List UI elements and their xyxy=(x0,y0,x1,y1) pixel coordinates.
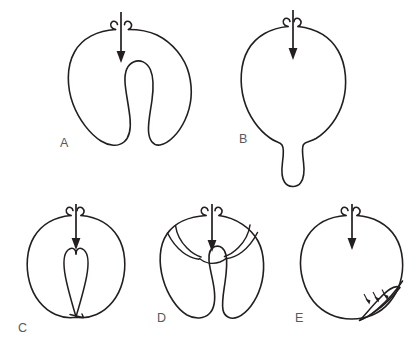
panel-d-right-shoulder-outer xyxy=(225,225,251,257)
panel-d-left-shoulder-inner xyxy=(168,233,200,259)
panel-d-left-shoulder-outer xyxy=(176,226,202,258)
panel-c-inner-loop-left xyxy=(64,248,76,317)
panel-b-right-lip xyxy=(294,18,301,26)
panel-label-b: B xyxy=(239,132,248,146)
panel-a-left-lip xyxy=(111,21,118,29)
panel-c-left-lip xyxy=(66,207,73,215)
panel-a-arrow-head xyxy=(117,51,126,63)
panel-a-body-outline xyxy=(68,30,191,146)
panel-c: C xyxy=(18,204,125,335)
panel-label-c: C xyxy=(18,321,27,335)
panel-a-right-lip xyxy=(125,21,132,29)
panel-c-inner-loop-right xyxy=(76,248,88,317)
panel-a: A xyxy=(60,12,191,150)
figure-root: A B xyxy=(0,0,417,347)
diagram-canvas: A B xyxy=(0,0,417,347)
panel-d-right-lip xyxy=(215,207,222,215)
panel-e-arrow-head xyxy=(348,238,357,250)
panel-b-left-lip xyxy=(283,18,290,26)
panel-e: E xyxy=(295,204,403,325)
panel-c-right-lip xyxy=(77,207,84,215)
panel-d-right-shoulder-inner xyxy=(226,233,258,259)
panel-e-right-lip xyxy=(353,207,360,215)
panel-e-left-lip xyxy=(341,207,348,215)
panel-label-a: A xyxy=(60,136,69,150)
panel-label-d: D xyxy=(157,311,166,325)
panel-b-arrow-head xyxy=(289,48,298,60)
panel-e-small-arrow-1-head xyxy=(365,299,370,305)
panel-d: D xyxy=(157,204,264,325)
panel-b: B xyxy=(239,10,346,186)
panel-label-e: E xyxy=(295,311,304,325)
panel-d-left-lip xyxy=(201,207,208,215)
panel-d-cavity-roof-arc xyxy=(200,259,227,264)
